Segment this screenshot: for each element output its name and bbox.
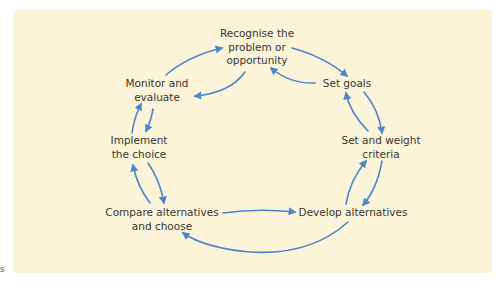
arrow-monitor-to-recognise — [166, 48, 222, 75]
arrow-implement-to-monitor — [132, 104, 141, 133]
arrow-criteria-to-set-goals — [346, 93, 368, 131]
arrow-criteria-to-develop — [363, 161, 382, 205]
node-implement-choice: Implement the choice — [111, 134, 168, 161]
node-compare-alternatives: Compare alternatives and choose — [105, 206, 218, 233]
arrow-recognise-to-monitor — [195, 72, 245, 96]
node-label-line: evaluate — [125, 91, 188, 105]
node-monitor-evaluate: Monitor and evaluate — [125, 77, 188, 104]
node-label-line: criteria — [341, 148, 420, 162]
node-label-line: problem or — [220, 41, 294, 55]
node-label-line: Set and weight — [341, 134, 420, 148]
arrow-develop-to-criteria — [346, 161, 366, 204]
arrow-set-goals-to-recognise — [271, 68, 315, 83]
arrow-implement-to-compare — [148, 163, 164, 203]
node-label-line: Develop alternatives — [299, 206, 408, 220]
arrow-recognise-to-set-goals — [292, 48, 347, 76]
arrow-compare-to-implement — [133, 165, 150, 203]
node-label-line: opportunity — [220, 54, 294, 68]
node-label-line: Monitor and — [125, 77, 188, 91]
node-label-line: the choice — [111, 148, 168, 162]
arrow-monitor-to-implement — [146, 109, 153, 131]
arrow-compare-to-develop — [223, 210, 295, 213]
node-label-line: Compare alternatives — [105, 206, 218, 220]
node-develop-alternatives: Develop alternatives — [299, 206, 408, 220]
node-recognise-problem: Recognise the problem or opportunity — [220, 27, 294, 68]
node-label-line: and choose — [105, 220, 218, 234]
node-label-line: Set goals — [323, 77, 372, 91]
node-label-line: Recognise the — [220, 27, 294, 41]
node-label-line: Implement — [111, 134, 168, 148]
node-set-goals: Set goals — [323, 77, 372, 91]
node-set-and-weight-criteria: Set and weight criteria — [341, 134, 420, 161]
arrow-set-goals-to-criteria — [364, 92, 382, 133]
